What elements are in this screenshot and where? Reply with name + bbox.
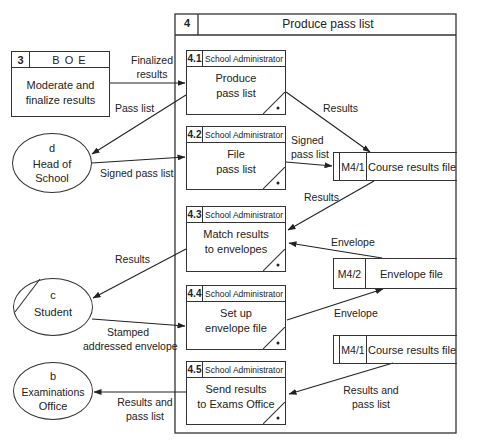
process-corner-mark-icon	[263, 92, 285, 114]
flow-label-stamped-envelope: Stamped addressed envelope	[83, 325, 173, 353]
store-id: M4/1	[339, 153, 367, 180]
process-4-5[interactable]: 4.5 School Administrator Send results to…	[186, 361, 286, 425]
process-label-line1: Set up	[220, 306, 252, 321]
entity-label-line1: Student	[14, 306, 92, 319]
entity-id: d	[13, 142, 91, 155]
process-label-line2: pass list	[216, 162, 256, 177]
process-label-line2: pass list	[216, 86, 256, 101]
store-name: Envelope file	[366, 259, 457, 288]
process-label-line1: Moderate and	[27, 78, 95, 93]
entity-student[interactable]: c Student	[13, 278, 93, 336]
process-4-1[interactable]: 4.1 School Administrator Produce pass li…	[186, 50, 286, 115]
flow-label-results-41: Results	[323, 101, 358, 115]
flow-signed-pass-list-out	[286, 162, 332, 166]
flow-label-results-pass-right: Results and pass list	[336, 383, 406, 411]
process-actor: School Administrator	[203, 362, 285, 377]
process-label-line1: Produce	[216, 71, 257, 86]
entity-label-line2: Office	[14, 400, 92, 413]
flow-label-results-store-to-43: Results	[304, 190, 339, 204]
frame-title: Produce pass list	[200, 17, 456, 31]
process-number: 4.5	[187, 362, 203, 377]
entity-label-line1: Examinations	[14, 386, 92, 399]
process-4-2[interactable]: 4.2 School Administrator File pass list	[186, 126, 286, 190]
flow-label-results-to-student: Results	[115, 252, 150, 266]
flow-label-results-pass-left: Results and pass list	[110, 395, 180, 423]
flow-label-envelope-to-43: Envelope	[331, 235, 375, 249]
entity-id: b	[14, 370, 92, 383]
process-corner-mark-icon	[263, 249, 285, 271]
entity-id: c	[14, 289, 92, 302]
flow-label-pass-list: Pass list	[115, 101, 154, 115]
flow-signed-pass-list-in	[92, 157, 185, 163]
process-corner-mark-icon	[263, 167, 285, 189]
flow-label-signed-pass-list-left: Signed pass list	[100, 166, 174, 180]
store-id: M4/1	[339, 336, 367, 363]
process-4-3[interactable]: 4.3 School Administrator Match results t…	[186, 206, 286, 272]
process-number: 4.4	[187, 286, 203, 301]
store-m4-1-course-results[interactable]: M4/1 Course results file	[333, 152, 457, 181]
process-label-line1: Match results	[203, 227, 268, 242]
process-number: 4.1	[187, 51, 203, 66]
process-actor: School Administrator	[203, 207, 285, 222]
process-actor: School Administrator	[203, 127, 285, 142]
flow-label-envelope-from-44: Envelope	[334, 306, 378, 320]
process-number: 3	[12, 52, 30, 67]
process-actor: School Administrator	[203, 51, 285, 66]
process-label-line2: finalize results	[26, 93, 96, 108]
process-actor: School Administrator	[203, 286, 285, 301]
entity-examinations-office[interactable]: b Examinations Office	[13, 362, 93, 420]
flow-label-finalized-results: Finalized results	[122, 53, 182, 81]
store-name: Course results file	[367, 336, 457, 363]
store-name: Course results file	[367, 153, 457, 180]
entity-head-of-school[interactable]: d Head of School	[12, 133, 92, 193]
process-4-4[interactable]: 4.4 School Administrator Set up envelope…	[186, 285, 286, 350]
store-m4-1-course-results-dup[interactable]: M4/1 Course results file	[333, 335, 457, 364]
process-actor: B O E	[30, 52, 109, 67]
process-label-line2: to envelopes	[205, 242, 267, 257]
process-label-line1: File	[227, 147, 245, 162]
process-number: 4.2	[187, 127, 203, 142]
frame-number: 4	[178, 17, 196, 30]
process-label-line1: Send results	[205, 382, 266, 397]
process-label-line2: envelope file	[205, 321, 267, 336]
process-corner-mark-icon	[263, 402, 285, 424]
entity-label-line1: Head of	[13, 158, 91, 171]
store-id: M4/2	[333, 259, 366, 288]
flow-results-to-43	[288, 181, 374, 230]
process-number: 4.3	[187, 207, 203, 222]
entity-label-line2: School	[13, 172, 91, 185]
process-3-boe[interactable]: 3 B O E Moderate and finalize results	[11, 51, 110, 117]
process-corner-mark-icon	[263, 327, 285, 349]
flow-label-signed-pass-list-right: Signed pass list	[291, 133, 329, 161]
store-m4-2-envelope[interactable]: M4/2 Envelope file	[333, 258, 457, 289]
